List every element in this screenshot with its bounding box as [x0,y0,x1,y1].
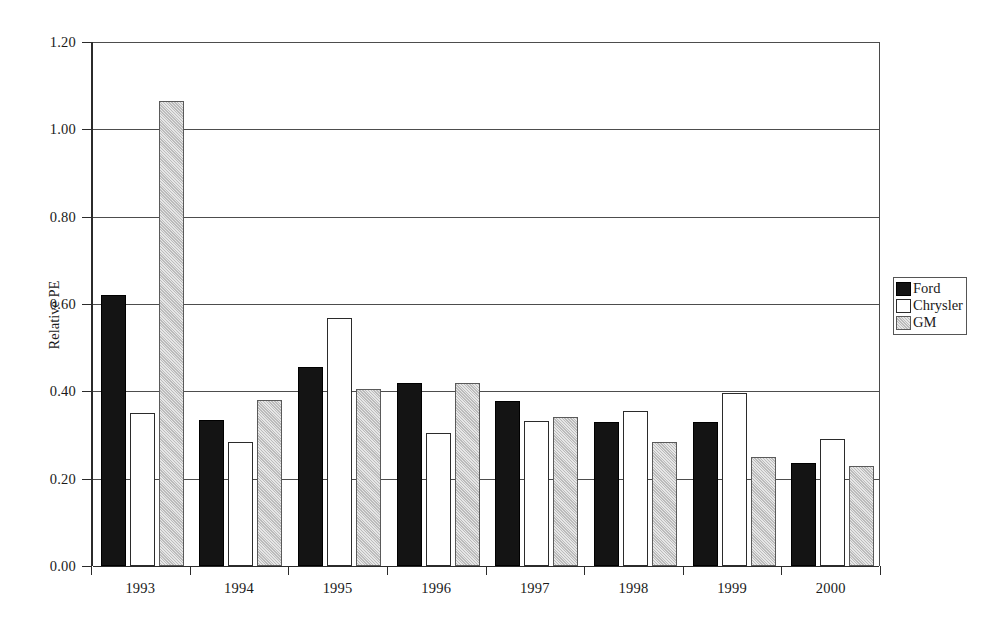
bar-chrysler-1998 [623,411,648,566]
y-tick-label: 0.20 [10,472,76,487]
bar-gm-1997 [553,417,578,566]
x-tick-label-1993: 1993 [100,580,180,597]
legend: FordChryslerGM [893,277,967,335]
bar-chrysler-1994 [228,442,253,566]
bar-gm-2000 [849,466,874,566]
y-tick-label: 0.80 [10,210,76,225]
plot-area [91,42,880,566]
bar-gm-1994 [257,400,282,566]
y-axis-title: Relative PE [46,281,63,350]
bar-ford-1999 [693,422,718,566]
bar-group [488,42,587,566]
y-tick-mark [82,129,91,130]
bar-group [685,42,784,566]
legend-label-gm: GM [911,315,936,330]
y-tick-label: 0.60 [10,297,76,312]
y-tick-mark [82,42,91,43]
x-tick-label-1998: 1998 [593,580,673,597]
x-tick-mark [584,566,585,575]
bar-ford-2000 [791,463,816,566]
y-axis-title-holder: Relative PE [30,255,31,375]
y-tick-label: 0.40 [10,384,76,399]
x-tick-label-1996: 1996 [396,580,476,597]
x-tick-mark [387,566,388,575]
legend-item-chrysler[interactable]: Chrysler [896,297,963,314]
bar-ford-1997 [495,401,520,566]
bar-chrysler-1993 [130,413,155,566]
bar-chrysler-1995 [327,318,352,566]
x-tick-mark [683,566,684,575]
legend-swatch-chrysler-icon [896,299,911,313]
x-tick-mark [781,566,782,575]
x-tick-mark [288,566,289,575]
x-tick-label-2000: 2000 [791,580,871,597]
bar-group [93,42,192,566]
x-tick-label-1997: 1997 [495,580,575,597]
bar-gm-1996 [455,383,480,566]
x-tick-mark [91,566,92,575]
bar-ford-1998 [594,422,619,566]
bar-ford-1995 [298,367,323,566]
y-tick-mark [82,217,91,218]
bar-gm-1998 [652,442,677,566]
x-tick-label-1999: 1999 [692,580,772,597]
x-tick-label-1995: 1995 [298,580,378,597]
x-tick-label-1994: 1994 [199,580,279,597]
y-tick-label: 1.20 [10,35,76,50]
bar-group [586,42,685,566]
legend-swatch-gm-icon [896,316,911,330]
bar-chrysler-1996 [426,433,451,566]
y-tick-mark [82,479,91,480]
legend-label-ford: Ford [911,281,940,296]
legend-item-ford[interactable]: Ford [896,280,963,297]
legend-rows: FordChryslerGM [896,280,963,331]
bar-gm-1993 [159,101,184,566]
legend-label-chrysler: Chrysler [911,298,963,313]
bar-ford-1996 [397,383,422,566]
bar-group [192,42,291,566]
bar-gm-1999 [751,457,776,566]
bar-group [389,42,488,566]
bar-chrysler-1997 [524,421,549,566]
bar-chrysler-1999 [722,393,747,566]
legend-item-gm[interactable]: GM [896,314,963,331]
y-tick-label: 0.00 [10,559,76,574]
bar-group [783,42,882,566]
y-tick-label: 1.00 [10,122,76,137]
legend-swatch-ford-icon [896,282,911,296]
x-tick-mark [190,566,191,575]
bar-ford-1993 [101,295,126,566]
bar-gm-1995 [356,389,381,566]
x-tick-mark [880,566,881,575]
y-tick-mark [82,566,91,567]
bar-group [290,42,389,566]
bar-ford-1994 [199,420,224,566]
bar-chrysler-2000 [820,439,845,566]
y-tick-mark [82,304,91,305]
y-tick-mark [82,391,91,392]
x-tick-mark [486,566,487,575]
relative-pe-bar-chart: Relative PE 0.000.200.400.600.801.001.20… [0,0,1002,621]
